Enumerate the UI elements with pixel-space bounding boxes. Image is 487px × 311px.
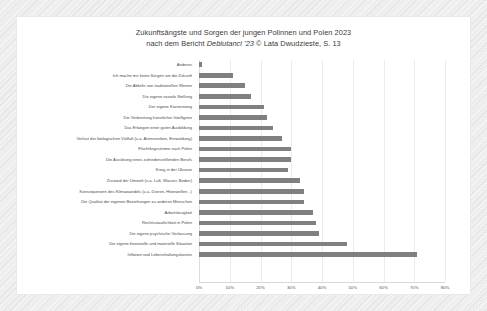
category-label: Krieg in der Ukraine (21, 165, 195, 176)
category-label: Ich mache mir keine Sorgen um die Zukunf… (21, 71, 195, 82)
chart-title-block: Zukunftsängste und Sorgen der jungen Pol… (17, 27, 470, 49)
subtitle-suffix: © Lata Dwudzieste, S. 13 (254, 39, 341, 48)
bar-row (199, 176, 445, 187)
bar (199, 115, 267, 120)
category-label: Die eigene finanzielle und materielle Si… (21, 239, 195, 250)
x-tick-label: 70% (410, 285, 419, 290)
category-label: Die Ausübung eines zufriedenstellenden B… (21, 155, 195, 166)
bar-row (199, 144, 445, 155)
bar (199, 189, 304, 194)
x-tick-label: 30% (287, 285, 296, 290)
bar (199, 83, 245, 88)
bar-row (199, 197, 445, 208)
x-tick-label: 0% (196, 285, 202, 290)
category-label: Arbeitslosigkeit (21, 208, 195, 219)
bar (199, 94, 251, 99)
plot-area: AnderesIch mache mir keine Sorgen um die… (17, 57, 470, 294)
bar-row (199, 250, 445, 261)
bar (199, 126, 273, 131)
x-tick-label: 50% (348, 285, 357, 290)
category-axis-labels: AnderesIch mache mir keine Sorgen um die… (21, 60, 195, 260)
image-frame: Zukunftsängste und Sorgen der jungen Pol… (0, 0, 487, 311)
category-label: Das Erlangen einer guten Ausbildung (21, 123, 195, 134)
bar-row (199, 134, 445, 145)
bar (199, 178, 300, 183)
x-tick-label: 40% (318, 285, 327, 290)
bar (199, 136, 282, 141)
value-axis: 0%10%20%30%40%50%60%70%80% (199, 282, 445, 296)
category-label: Die Abkehr von traditionellen Werten (21, 81, 195, 92)
category-label: Anderes (21, 60, 195, 71)
bar-row (199, 165, 445, 176)
bar-row (199, 239, 445, 250)
bar-row (199, 229, 445, 240)
x-tick-label: 80% (441, 285, 450, 290)
chart-subtitle: nach dem Bericht Debiutanci '23 © Lata D… (17, 38, 470, 49)
subtitle-source: Debiutanci '23 (207, 39, 254, 48)
axis-line (199, 282, 445, 283)
category-label: Die Qualität der eigenen Beziehungen zu … (21, 197, 195, 208)
bar (199, 252, 417, 257)
bar (199, 73, 233, 78)
bar (199, 168, 288, 173)
bar-row (199, 92, 445, 103)
bar (199, 147, 291, 152)
gridline (445, 60, 446, 282)
bar-row (199, 71, 445, 82)
bar (199, 157, 291, 162)
bar-series (199, 60, 445, 282)
bar-row (199, 123, 445, 134)
x-tick-label: 10% (225, 285, 234, 290)
category-label: Die eigene psychische Verfassung (21, 229, 195, 240)
category-label: Der eigene Karriereweg (21, 102, 195, 113)
category-label: Konsequenzen des Klimawandels (u.a. Dürr… (21, 187, 195, 198)
x-tick-label: 20% (256, 285, 265, 290)
x-tick-label: 60% (379, 285, 388, 290)
chart-title: Zukunftsängste und Sorgen der jungen Pol… (17, 27, 470, 38)
category-label: Die eigene soziale Stellung (21, 92, 195, 103)
bar (199, 200, 304, 205)
bar-row (199, 102, 445, 113)
category-label: Inflation und Lebenshaltungskosten (21, 250, 195, 261)
bar-row (199, 187, 445, 198)
bar-row (199, 155, 445, 166)
bar-row (199, 113, 445, 124)
bar (199, 210, 313, 215)
category-label: Rechtsstaatlichkeit in Polen (21, 218, 195, 229)
subtitle-prefix: nach dem Bericht (146, 39, 206, 48)
category-label: Zustand der Umwelt (u.a. Luft, Wasser, B… (21, 176, 195, 187)
chart-card: Zukunftsängste und Sorgen der jungen Pol… (17, 17, 470, 294)
bar-row (199, 60, 445, 71)
bar (199, 242, 347, 247)
bar-row (199, 81, 445, 92)
bar (199, 221, 316, 226)
bar (199, 231, 319, 236)
bar-row (199, 208, 445, 219)
category-label: Verlust der biologischen Vielfalt (u.a. … (21, 134, 195, 145)
bar (199, 62, 202, 67)
category-label: Flüchtlingsströme nach Polen (21, 144, 195, 155)
bar-row (199, 218, 445, 229)
category-label: Die Verbreitung künstlicher Intelligenz (21, 113, 195, 124)
bar (199, 105, 264, 110)
